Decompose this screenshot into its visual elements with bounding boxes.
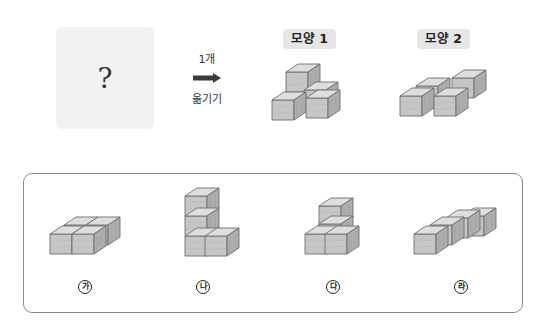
option-ga-marker[interactable]: 가 (78, 280, 92, 294)
option-ga-figure[interactable] (50, 217, 130, 277)
right-arrow-icon (193, 73, 223, 83)
option-na-marker[interactable]: 나 (196, 280, 210, 294)
move-action-label: 옮기기 (187, 90, 227, 106)
option-da-figure[interactable] (305, 198, 375, 278)
move-count-label: 1개 (194, 50, 220, 66)
shape-1-figure (272, 64, 352, 134)
option-ra-marker[interactable]: 라 (454, 280, 468, 294)
option-da-marker[interactable]: 다 (326, 280, 340, 294)
option-ra-figure[interactable] (414, 208, 514, 278)
shape-2-figure (400, 70, 510, 130)
shape-2-label: 모양 2 (417, 29, 470, 49)
unknown-shape-box: ? (56, 27, 154, 129)
question-mark: ? (97, 62, 112, 95)
option-na-figure[interactable] (185, 188, 255, 278)
shape-1-label: 모양 1 (283, 29, 336, 49)
